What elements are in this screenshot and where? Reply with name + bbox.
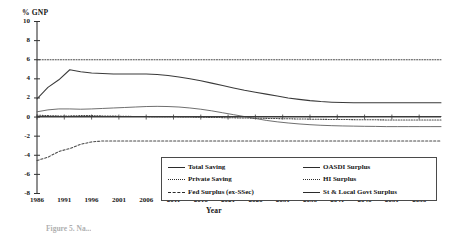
x-tick-label: 2006: [131, 196, 161, 204]
x-tick-label: 2001: [104, 196, 134, 204]
legend-item[interactable]: HI Surplus: [303, 174, 397, 187]
y-tick-label: 6: [16, 55, 30, 63]
legend-line-swatch-icon: [168, 175, 185, 184]
legend-item-label: St & Local Govt Surplus: [323, 188, 397, 197]
legend-item-label: Private Saving: [188, 175, 232, 184]
legend-item[interactable]: St & Local Govt Surplus: [303, 186, 397, 199]
y-tick-label: -2: [16, 132, 30, 140]
legend-item[interactable]: OASDI Surplus: [303, 161, 397, 174]
x-axis-title: Year: [206, 206, 222, 215]
legend-column-left: Total SavingPrivate SavingFed Surplus (e…: [168, 161, 254, 199]
figure-caption: Figure 5. Na...: [46, 224, 91, 233]
legend-column-right: OASDI SurplusHI SurplusSt & Local Govt S…: [303, 161, 397, 199]
legend-item-label: OASDI Surplus: [323, 163, 370, 172]
y-tick-label: 4: [16, 74, 30, 82]
y-tick-label: 8: [16, 36, 30, 44]
series-line: [37, 70, 441, 103]
y-tick-label: 2: [16, 93, 30, 101]
legend-line-swatch-icon: [303, 175, 320, 184]
legend-item-label: HI Surplus: [323, 175, 356, 184]
x-tick-label: 1991: [49, 196, 79, 204]
legend-line-swatch-icon: [303, 163, 320, 172]
y-tick-label: 0: [16, 113, 30, 121]
x-tick-label: 1996: [77, 196, 107, 204]
y-tick-label: -6: [16, 170, 30, 178]
y-tick-label: -4: [16, 151, 30, 159]
figure-container: % GNP Year 1086420-2-4-6-8 1986199119962…: [0, 0, 454, 233]
chart-legend: Total SavingPrivate SavingFed Surplus (e…: [161, 157, 437, 201]
legend-item[interactable]: Private Saving: [168, 174, 254, 187]
legend-line-swatch-icon: [303, 188, 320, 197]
y-tick-label: 10: [16, 17, 30, 25]
legend-item[interactable]: Fed Surplus (ex-SSec): [168, 186, 254, 199]
legend-item[interactable]: Total Saving: [168, 161, 254, 174]
legend-line-swatch-icon: [168, 163, 185, 172]
x-tick-label: 1986: [22, 196, 52, 204]
legend-item-label: Fed Surplus (ex-SSec): [188, 188, 254, 197]
legend-item-label: Total Saving: [188, 163, 225, 172]
legend-line-swatch-icon: [168, 188, 185, 197]
y-axis-title: % GNP: [22, 8, 48, 17]
